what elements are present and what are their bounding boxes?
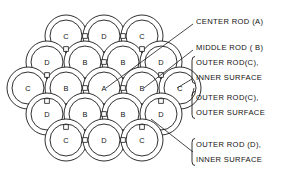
rod-contact-spacer <box>140 47 145 52</box>
rod-label: B <box>83 58 88 67</box>
rod-contact-spacer <box>83 34 88 39</box>
rod-label: D <box>44 110 49 119</box>
callout-text-line: OUTER ROD(C), <box>196 58 259 67</box>
rod-contact-spacer <box>121 34 126 39</box>
rod-contact-spacer <box>121 138 126 143</box>
rod-contact-spacer <box>102 112 107 117</box>
rod-label: D <box>158 110 163 119</box>
callout-text-line: OUTER ROD (D), <box>196 140 261 149</box>
callout-text-line: INNER SURFACE <box>196 73 262 82</box>
rod-label: B <box>64 84 69 93</box>
rod-contact-spacer <box>83 86 88 91</box>
callout-bracket <box>192 139 195 166</box>
rod-contact-spacer <box>45 99 50 104</box>
rods-layer: CDCDBBDCBABCDBBDCDC <box>7 15 201 161</box>
rod-contact-spacer <box>159 99 164 104</box>
rod-label: B <box>83 110 88 119</box>
callout-text-line: CENTER ROD (A) <box>196 17 263 26</box>
rod-contact-spacer <box>140 125 145 130</box>
rod-contact-spacer <box>83 138 88 143</box>
rod-label: B <box>121 58 126 67</box>
rod-label: D <box>101 32 106 41</box>
rod-label: B <box>121 110 126 119</box>
rod-label: C <box>139 136 145 145</box>
callout-text-line: OUTER SURFACE <box>196 108 265 117</box>
rod-contact-spacer <box>102 60 107 65</box>
callout-text-line: OUTER ROD(C), <box>196 93 259 102</box>
rod-label: D <box>101 136 106 145</box>
rod-d[interactable]: D <box>83 119 125 161</box>
rod-label: C <box>177 84 183 93</box>
rod-label: C <box>63 32 69 41</box>
rod-label: A <box>102 84 107 93</box>
diagram-root: CDCDBBDCBABCDBBDCDC CENTER ROD (A)MIDDLE… <box>0 0 286 190</box>
rod-contact-spacer <box>45 73 50 78</box>
callout-text-line: MIDDLE ROD ( B) <box>196 43 263 52</box>
callout-outer-rod-c-outer-surface[interactable]: OUTER ROD(C),OUTER SURFACE <box>192 88 265 119</box>
rod-label: B <box>140 84 145 93</box>
rod-bundle-diagram: CDCDBBDCBABCDBBDCDC CENTER ROD (A)MIDDLE… <box>0 0 286 190</box>
callout-text-line: INNER SURFACE <box>196 155 262 164</box>
rod-contact-spacer <box>64 47 69 52</box>
rod-label: C <box>139 32 145 41</box>
rod-label: D <box>158 58 163 67</box>
rod-label: C <box>63 136 69 145</box>
rod-contact-spacer <box>121 86 126 91</box>
rod-label: D <box>44 58 49 67</box>
rod-contact-spacer <box>64 125 69 130</box>
rod-label: C <box>25 84 31 93</box>
